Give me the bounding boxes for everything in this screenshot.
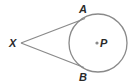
center-point-dot bbox=[95, 41, 98, 44]
tangent-circle-diagram: X A B P bbox=[0, 0, 136, 83]
label-a: A bbox=[78, 3, 87, 15]
label-x: X bbox=[8, 37, 17, 49]
label-p: P bbox=[100, 37, 108, 49]
tangent-segment-xa bbox=[21, 19, 85, 44]
label-b: B bbox=[79, 71, 87, 83]
tangent-segment-xb bbox=[21, 43, 84, 68]
